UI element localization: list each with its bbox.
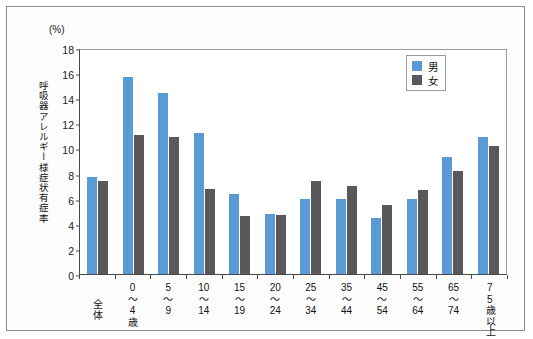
x-axis-tick-mark: [436, 275, 472, 280]
bar-female: [453, 171, 463, 274]
bar-female: [418, 190, 428, 274]
x-axis-label: 全体: [79, 282, 115, 337]
bar-male: [265, 214, 275, 274]
x-axis-tick-mark: [257, 275, 293, 280]
x-axis-label-text: 20 〜 24: [270, 282, 281, 337]
x-axis-label: 20 〜 24: [257, 282, 293, 337]
x-axis-tick-mark: [115, 275, 151, 280]
x-axis-label: 5 〜 9: [150, 282, 186, 337]
x-axis-label: 55 〜 64: [400, 282, 436, 337]
x-axis-label-text: 25 〜 34: [305, 282, 316, 337]
x-axis-tick-mark: [400, 275, 436, 280]
x-axis-label-text: 全体: [91, 282, 103, 337]
bar-female: [382, 205, 392, 274]
x-axis-tick-marks: [79, 275, 507, 280]
bar-male: [300, 199, 310, 274]
legend-item-male: 男: [412, 59, 438, 73]
x-axis-tick-mark: [150, 275, 186, 280]
bar-male: [194, 133, 204, 274]
bar-group: [364, 50, 400, 274]
legend-item-female: 女: [412, 73, 438, 87]
x-axis-label: 45 〜 54: [364, 282, 400, 337]
bar-group: [187, 50, 223, 274]
legend-label-male: 男: [428, 59, 438, 74]
x-axis-tick-mark: [79, 275, 115, 280]
x-axis-label-text: 15 〜 19: [234, 282, 245, 337]
x-axis-label-text: 45 〜 54: [377, 282, 388, 337]
x-axis-label: 25 〜 34: [293, 282, 329, 337]
x-axis-label-text: 65 〜 74: [448, 282, 459, 337]
x-axis-tick-mark: [222, 275, 258, 280]
legend-swatch-female-icon: [412, 75, 422, 85]
x-axis-tick-mark: [329, 275, 365, 280]
bar-female: [347, 186, 357, 274]
y-axis-title: 呼吸器アレルギー様症状有症率: [33, 81, 49, 224]
x-axis-label-text: 35 〜 44: [341, 282, 352, 337]
legend: 男 女: [406, 55, 446, 91]
bar-male: [123, 77, 133, 274]
bar-male: [336, 199, 346, 274]
bar-group: [116, 50, 152, 274]
bar-female: [489, 146, 499, 274]
bar-female: [205, 189, 215, 274]
bar-male: [407, 199, 417, 274]
bar-group: [80, 50, 116, 274]
bar-group: [471, 50, 507, 274]
bar-female: [169, 137, 179, 274]
bar-group: [151, 50, 187, 274]
bar-male: [87, 177, 97, 274]
x-axis-tick-mark: [364, 275, 400, 280]
legend-label-female: 女: [428, 73, 438, 88]
bar-male: [158, 93, 168, 274]
x-axis-label-text: 75歳以上: [483, 282, 495, 337]
x-axis-labels: 全体0 〜 4 歳5 〜 910 〜 1415 〜 1920 〜 2425 〜 …: [79, 282, 507, 337]
x-axis-label-text: 5 〜 9: [163, 282, 173, 337]
bar-female: [134, 135, 144, 274]
bar-male: [371, 218, 381, 275]
bar-male: [478, 137, 488, 274]
x-axis-label: 75歳以上: [471, 282, 507, 337]
x-axis-tick-mark: [293, 275, 329, 280]
bar-group: [293, 50, 329, 274]
bar-male: [442, 157, 452, 274]
bar-female: [276, 215, 286, 274]
bar-female: [98, 181, 108, 274]
legend-swatch-male-icon: [412, 61, 422, 71]
x-axis-label: 15 〜 19: [222, 282, 258, 337]
bar-male: [229, 194, 239, 274]
figure-frame: (%) 呼吸器アレルギー様症状有症率 024681012141618 全体0 〜…: [6, 6, 525, 331]
bar-group: [258, 50, 294, 274]
x-axis-label: 0 〜 4 歳: [115, 282, 151, 337]
x-axis-label: 35 〜 44: [329, 282, 365, 337]
x-axis-label-text: 55 〜 64: [412, 282, 423, 337]
x-axis-label: 65 〜 74: [436, 282, 472, 337]
unit-caption: (%): [49, 24, 65, 35]
x-axis-label: 10 〜 14: [186, 282, 222, 337]
x-axis-label-text: 0 〜 4 歳: [128, 282, 138, 337]
bar-group: [222, 50, 258, 274]
x-axis-tick-mark: [471, 275, 507, 280]
bar-group: [329, 50, 365, 274]
bar-female: [311, 181, 321, 274]
x-axis-label-text: 10 〜 14: [198, 282, 209, 337]
bar-female: [240, 216, 250, 274]
x-axis-tick-mark: [186, 275, 222, 280]
